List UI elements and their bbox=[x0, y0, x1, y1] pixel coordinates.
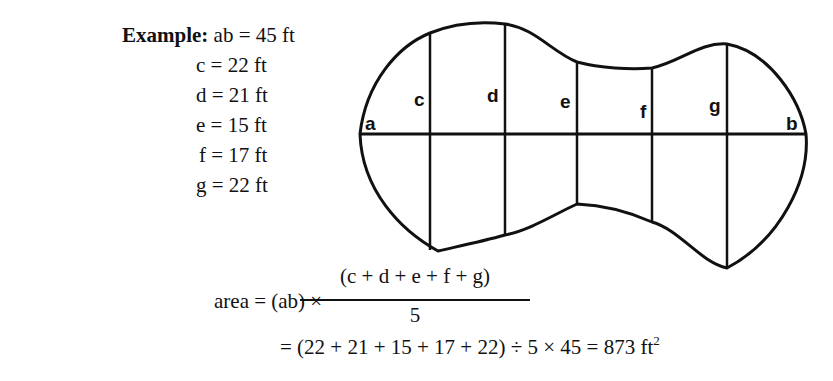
label-b: b bbox=[786, 113, 798, 134]
label-a: a bbox=[365, 113, 376, 134]
fraction-bar bbox=[300, 299, 530, 301]
formula-denominator: 5 bbox=[300, 303, 530, 328]
unit-exponent: 2 bbox=[653, 333, 660, 348]
pond-outline bbox=[360, 23, 806, 268]
label-g: g bbox=[709, 95, 721, 116]
label-c: c bbox=[414, 89, 425, 110]
label-e: e bbox=[560, 91, 571, 112]
calculation-text: = (22 + 21 + 15 + 17 + 22) ÷ 5 × 45 = 87… bbox=[280, 335, 653, 359]
label-f: f bbox=[640, 101, 647, 122]
area-calculation: = (22 + 21 + 15 + 17 + 22) ÷ 5 × 45 = 87… bbox=[280, 333, 660, 360]
label-d: d bbox=[487, 85, 499, 106]
formula-numerator: (c + d + e + f + g) bbox=[300, 264, 530, 289]
